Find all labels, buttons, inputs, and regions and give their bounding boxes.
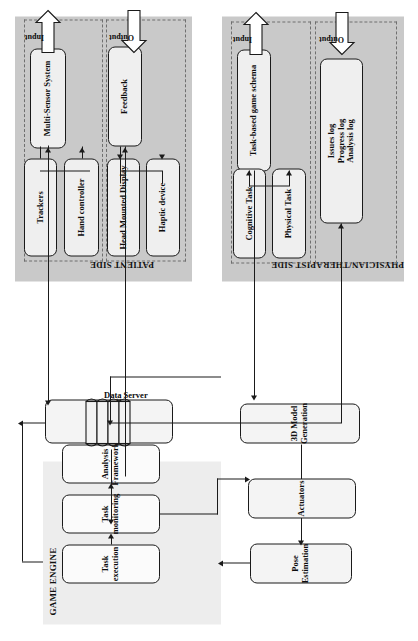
node-trackers[interactable]: Trackers [24,158,57,256]
edge-rail-into-task-execution [22,561,43,562]
edge-pose-estimation-to-game-engine [222,562,250,563]
edge-task-monitoring-down [160,513,218,514]
edge-software-dev-to-game-engine [22,422,46,423]
node-multi-sensor-system[interactable]: Multi-Sensor System [30,48,66,148]
node-hand-controller[interactable]: Hand controller [64,158,99,256]
arrowhead-software-dev-in [251,395,257,400]
arrowhead-multi-sensor-in-b [79,147,85,152]
arrowhead-actuators-in [245,476,250,482]
panel-game-engine-title: GAME ENGINE [48,547,58,615]
arrowhead-game-schema-in-a [246,170,252,175]
edge-analysis-framework-to-data-server [110,376,111,422]
arrowhead-haptic-in [159,154,165,159]
edge-analysis-framework-down [110,376,221,377]
edge-data-server-down [111,422,341,423]
arrowhead-logs-in [108,519,114,524]
node-feedback[interactable]: Feedback [108,46,142,146]
diagram-canvas: GAME ENGINE Task execution Task monitori… [0,0,418,641]
edge-split-to-hmd [120,170,121,183]
arrowhead-hmd-in [117,154,123,159]
node-pose-estimation[interactable]: Pose Estimation [250,543,352,583]
arrowhead-game-schema-in-b [286,170,292,175]
node-task-based-game-schema[interactable]: Task-based game schema [237,49,271,171]
panel-game-engine [43,461,221,624]
edge-to-actuators [217,478,248,479]
edge-data-server-rail-to-logs [341,223,342,423]
arrowhead-game-engine-in [218,560,223,566]
patient-input-arrow-label: Input [25,32,44,41]
edge-feedback-split [120,170,162,171]
diagram-stage: GAME ENGINE Task execution Task monitori… [0,0,418,641]
node-logs[interactable]: Issues log Progress log Analysis log [320,58,363,223]
node-task-execution[interactable]: Task execution [62,544,160,583]
edge-game-schema-to-software-dev [254,170,255,396]
edge-trackers-to-merge [40,146,41,158]
edge-software-dev-top-rail [22,422,23,561]
arrowhead-task-monitoring-in [108,533,114,538]
arrowhead-logs-target [338,223,344,228]
edge-data-server-to-logs [111,449,112,521]
patient-output-arrow-label: Output [109,32,134,41]
physician-input-arrow-label: Input [233,34,252,43]
arrowhead-model-generation-in [45,400,51,405]
node-actuators[interactable]: Actuators [248,478,356,518]
edge-split-to-haptic [162,170,163,183]
arrowhead-feedback-in [122,147,128,152]
edge-task-monitoring-elbow [217,478,218,514]
node-head-mounted-display[interactable]: Head Mounted Display [107,158,140,256]
node-logs-label: Issues log Progress log Analysis log [327,118,356,162]
arrowhead-pose-estimation-in [298,540,304,545]
edge-multi-sensor-to-model-generation [48,147,49,401]
physician-output-arrow-label: Output [319,34,344,43]
edge-actuators-to-feedback [125,146,126,476]
